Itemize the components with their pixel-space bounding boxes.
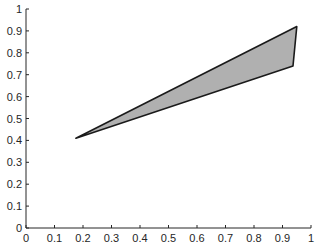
x-tick-label: 0.8 — [246, 232, 261, 244]
x-tick-label: 0 — [23, 232, 29, 244]
y-tick-label: 1 — [16, 3, 22, 15]
chart: 00.10.20.30.40.50.60.70.80.91 00.10.20.3… — [0, 0, 319, 249]
y-tick-label: 0.9 — [7, 25, 22, 37]
y-tick-label: 0.2 — [7, 178, 22, 190]
y-tick-label: 0.5 — [7, 113, 22, 125]
x-tick-label: 0.2 — [75, 232, 90, 244]
y-tick-label: 0.8 — [7, 47, 22, 59]
x-tick-label: 0.1 — [47, 232, 62, 244]
x-tick-label: 0.3 — [104, 232, 119, 244]
x-tick-label: 0.5 — [161, 232, 176, 244]
x-tick-label: 1 — [308, 232, 314, 244]
x-tick-label: 0.4 — [132, 232, 147, 244]
y-tick-label: 0.7 — [7, 69, 22, 81]
plot-area — [76, 27, 297, 139]
x-tick-label: 0.7 — [218, 232, 233, 244]
x-tick-label: 0.6 — [189, 232, 204, 244]
y-tick-label: 0 — [16, 222, 22, 234]
y-tick-label: 0.6 — [7, 91, 22, 103]
y-tick-label: 0.1 — [7, 200, 22, 212]
y-tick-label: 0.4 — [7, 134, 22, 146]
y-tick-label: 0.3 — [7, 156, 22, 168]
x-tick-label: 0.9 — [275, 232, 290, 244]
filled-triangle — [76, 27, 297, 139]
